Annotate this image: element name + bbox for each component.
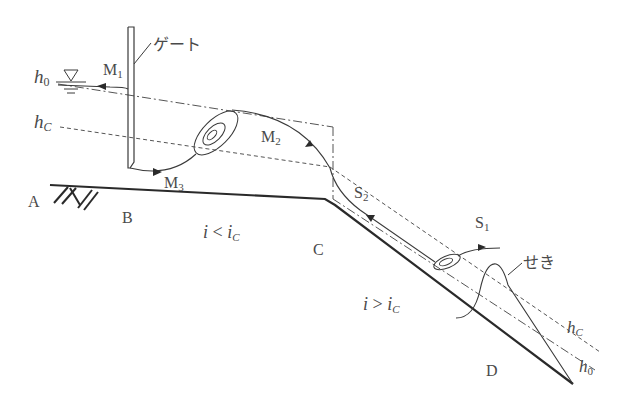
- hc-label-left: hC: [34, 111, 53, 134]
- mild-slope-label: i < iC: [203, 222, 240, 243]
- m3-profile: [130, 154, 196, 171]
- s1-label: S1: [475, 214, 489, 233]
- hc-label-right: hC: [567, 318, 584, 338]
- point-d-label: D: [486, 362, 498, 379]
- h0-label-left: h0: [34, 66, 50, 89]
- point-c-label: C: [313, 241, 324, 258]
- m3-label: M3: [164, 174, 184, 193]
- gate: [128, 27, 134, 168]
- point-a-label: A: [28, 193, 40, 210]
- hydraulic-jump-steep: [432, 251, 462, 273]
- steep-slope-label: i > iC: [363, 294, 400, 315]
- m2-label: M2: [261, 128, 281, 147]
- m3-arrow: [153, 168, 162, 176]
- m1-arrow: [97, 83, 106, 90]
- bed-hatching: [54, 187, 98, 210]
- s1-arrow: [478, 244, 486, 251]
- gate-leader: [134, 43, 151, 64]
- m1-label: M1: [103, 61, 123, 80]
- gate-label: ゲート: [153, 35, 201, 54]
- m1-profile: [58, 85, 128, 89]
- weir: [456, 264, 573, 384]
- weir-leader: [508, 263, 522, 275]
- s2-label: S2: [354, 184, 368, 203]
- point-b-label: B: [122, 209, 133, 226]
- normal-depth-line-steep: [333, 199, 595, 370]
- h0-label-right: h0: [579, 357, 594, 377]
- s2-profile: [330, 168, 435, 262]
- water-surface-symbol: [56, 70, 86, 93]
- weir-label: せき: [523, 253, 555, 272]
- channel-profile-diagram: ゲート せき h0 hC hC h0 M1 M2 M3 S1: [0, 0, 619, 408]
- normal-depth-line-mild: [58, 84, 333, 127]
- critical-depth-line: [60, 127, 600, 352]
